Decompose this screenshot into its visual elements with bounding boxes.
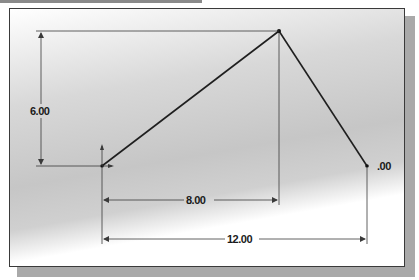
origin-axis-icon xyxy=(100,144,114,168)
sketch-lines xyxy=(102,31,367,166)
dimension-to-apex[interactable] xyxy=(102,33,279,244)
dimension-total-label[interactable]: 12.00 xyxy=(227,233,252,245)
dimension-to-apex-label[interactable]: 8.00 xyxy=(186,194,206,206)
sketch-canvas: 6.00 8.00 12.00 .00 xyxy=(0,0,419,280)
dimension-height-label[interactable]: 6.00 xyxy=(30,105,50,117)
line-origin-to-apex[interactable] xyxy=(102,31,279,166)
end-point[interactable] xyxy=(365,164,369,168)
dimension-end-label[interactable]: .00 xyxy=(377,160,391,172)
line-apex-to-end[interactable] xyxy=(279,31,367,166)
dimension-height[interactable] xyxy=(36,31,279,166)
